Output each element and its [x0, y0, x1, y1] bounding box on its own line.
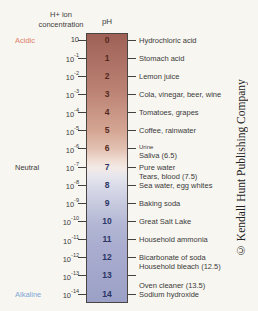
tick-right	[128, 58, 136, 59]
substance-label: Baking soda	[139, 199, 180, 208]
tick-right	[128, 94, 136, 95]
substance-labels: Coffee, rainwater	[139, 126, 196, 135]
concentration-exponent: -8	[74, 179, 79, 185]
tick-right	[128, 112, 136, 113]
substance-labels: Bicarbonate of sodaHousehold bleach (12.…	[139, 253, 221, 271]
ph-number: 7	[86, 162, 128, 172]
tick-right	[128, 257, 136, 258]
h-ion-concentration-value: 10-7	[26, 162, 79, 173]
substance-label: Hydrochloric acid	[139, 36, 197, 45]
tick-left	[78, 167, 86, 168]
h-ion-concentration-value: 10-2	[26, 71, 79, 82]
tick-right	[128, 148, 136, 149]
concentration-exponent: -6	[74, 143, 79, 149]
h-ion-concentration-value: 10-8	[26, 180, 79, 191]
tick-right	[128, 239, 136, 240]
substance-label: Coffee, rainwater	[139, 126, 196, 135]
substance-label: Tomatoes, grapes	[139, 108, 199, 117]
substance-labels: Lemon juice	[139, 72, 179, 81]
tick-left	[78, 239, 86, 240]
concentration-exponent: -3	[74, 88, 79, 94]
copyright-text: © Kendall Hunt Publishing Company	[231, 33, 251, 303]
concentration-base: 10	[63, 254, 71, 263]
concentration-exponent: -13	[71, 270, 79, 276]
concentration-base: 10	[71, 35, 79, 44]
h-ion-concentration-value: 10-13	[26, 271, 79, 282]
tick-left	[78, 58, 86, 59]
substance-label: Sodium hydroxide	[139, 290, 205, 299]
concentration-exponent: -11	[71, 234, 79, 240]
substance-labels: Oven cleaner (13.5)Sodium hydroxide	[139, 281, 205, 299]
substance-label: Oven cleaner (13.5)	[139, 281, 205, 290]
tick-right	[128, 76, 136, 77]
tick-left	[78, 275, 86, 276]
ph-number: 1	[86, 53, 128, 63]
concentration-base: 10	[66, 200, 74, 209]
concentration-base: 10	[66, 91, 74, 100]
concentration-base: 10	[66, 109, 74, 118]
concentration-exponent: -12	[71, 252, 79, 258]
tick-left	[78, 76, 86, 77]
substance-label: Great Salt Lake	[139, 217, 191, 226]
ph-number: 13	[86, 270, 128, 280]
ph-scale-diagram: H+ ion concentration pH Acidic Neutral A…	[0, 0, 258, 311]
concentration-base: 10	[66, 164, 74, 173]
h-ion-concentration-value: 10-4	[26, 108, 79, 119]
tick-right	[128, 294, 136, 295]
ph-number: 4	[86, 107, 128, 117]
tick-right	[128, 167, 136, 168]
tick-left	[78, 112, 86, 113]
concentration-exponent: -1	[74, 52, 79, 58]
concentration-exponent: -10	[71, 215, 79, 221]
substance-label: Saliva (6.5)	[139, 151, 177, 160]
substance-label: Cola, vinegar, beer, wine	[139, 90, 221, 99]
substance-labels: UrineSaliva (6.5)	[139, 144, 177, 160]
substance-labels: Baking soda	[139, 199, 180, 208]
h-ion-concentration-value: 10-9	[26, 198, 79, 209]
h-ion-concentration-value: 10-6	[26, 144, 79, 155]
tick-right	[128, 275, 136, 276]
tick-left	[78, 148, 86, 149]
substance-labels: Stomach acid	[139, 54, 184, 63]
substance-labels: Household ammonia	[139, 235, 208, 244]
substance-label: Urine	[139, 144, 177, 151]
substance-label: Bicarbonate of soda	[139, 253, 221, 262]
concentration-exponent: -7	[74, 161, 79, 167]
concentration-base: 10	[63, 218, 71, 227]
ph-number: 12	[86, 252, 128, 262]
tick-right	[128, 40, 136, 41]
tick-right	[128, 185, 136, 186]
tick-left	[78, 94, 86, 95]
concentration-base: 10	[66, 73, 74, 82]
substance-labels: Tomatoes, grapes	[139, 108, 199, 117]
ph-number: 0	[86, 35, 128, 45]
tick-left	[78, 221, 86, 222]
ph-number: 14	[86, 289, 128, 299]
substance-labels: Sea water, egg whites	[139, 181, 212, 190]
ph-number: 3	[86, 89, 128, 99]
concentration-exponent: -9	[74, 197, 79, 203]
substance-labels: Hydrochloric acid	[139, 36, 197, 45]
ph-number: 2	[86, 71, 128, 81]
substance-labels: Cola, vinegar, beer, wine	[139, 90, 221, 99]
concentration-base: 10	[66, 182, 74, 191]
ph-number: 9	[86, 198, 128, 208]
substance-label: Household ammonia	[139, 235, 208, 244]
concentration-base: 10	[63, 272, 71, 281]
substance-labels: Pure waterTears, blood (7.5)	[139, 163, 197, 181]
h-ion-concentration-value: 10-5	[26, 126, 79, 137]
concentration-base: 10	[66, 55, 74, 64]
tick-left	[78, 257, 86, 258]
substance-label: Tears, blood (7.5)	[139, 172, 197, 181]
tick-right	[128, 130, 136, 131]
ph-number: 8	[86, 180, 128, 190]
substance-label: Pure water	[139, 163, 197, 172]
tick-left	[78, 203, 86, 204]
concentration-exponent: -4	[74, 107, 79, 113]
concentration-exponent: -2	[74, 70, 79, 76]
tick-left	[78, 185, 86, 186]
ph-number: 10	[86, 216, 128, 226]
substance-label: Stomach acid	[139, 54, 184, 63]
tick-left	[78, 130, 86, 131]
concentration-base: 10	[66, 127, 74, 136]
